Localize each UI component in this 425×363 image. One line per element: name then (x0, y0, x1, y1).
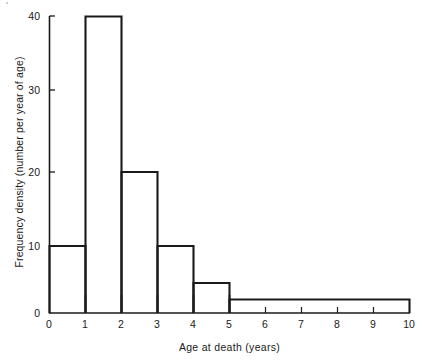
plot-area (0, 0, 425, 363)
axes (49, 16, 410, 314)
histogram-bar-0-1 (50, 246, 86, 313)
histogram-bar-5-10 (230, 300, 410, 314)
histogram-figure: Frequency density (number per year of ag… (0, 0, 425, 363)
histogram-bars (50, 17, 410, 314)
histogram-bar-3-4 (158, 246, 194, 313)
histogram-bar-4-5 (194, 283, 230, 313)
histogram-bar-1-2 (86, 17, 122, 314)
histogram-bar-2-3 (122, 172, 158, 313)
x-tick-marks-minor (266, 307, 374, 313)
y-tick-marks (50, 16, 56, 246)
